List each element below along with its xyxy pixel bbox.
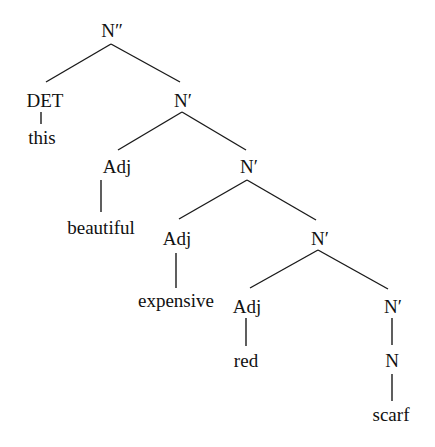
tree-edge	[182, 112, 246, 150]
node-adj-1: Adj	[103, 157, 132, 176]
node-n-double-bar: N″	[101, 21, 123, 40]
word-scarf: scarf	[373, 405, 410, 424]
word-red: red	[234, 351, 258, 370]
word-expensive: expensive	[138, 291, 214, 310]
word-beautiful: beautiful	[67, 218, 135, 237]
node-n-bar-2: N′	[240, 157, 258, 176]
node-n-bar-4: N′	[384, 297, 402, 316]
node-n: N	[385, 351, 399, 370]
syntax-tree-diagram: N″ DET this N′ Adj beautiful N′ Adj expe…	[0, 0, 435, 447]
tree-edge	[46, 44, 111, 82]
node-n-bar-1: N′	[174, 91, 192, 110]
tree-edge	[179, 180, 247, 219]
tree-edge	[247, 180, 316, 220]
word-this: this	[28, 128, 55, 147]
tree-edge	[111, 44, 180, 82]
tree-edge	[318, 250, 388, 289]
node-det: DET	[27, 91, 64, 110]
node-adj-3: Adj	[233, 297, 262, 316]
tree-edge	[118, 112, 182, 150]
tree-edges	[0, 0, 435, 447]
node-n-bar-3: N′	[311, 229, 329, 248]
node-adj-2: Adj	[163, 229, 192, 248]
tree-edge	[250, 250, 318, 288]
